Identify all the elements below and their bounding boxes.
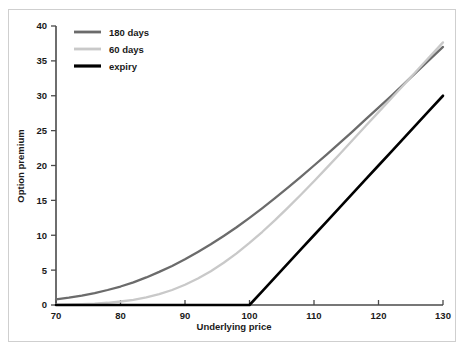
y-tick-label: 40 [36, 20, 47, 31]
y-tick-label: 30 [36, 90, 47, 101]
chart-legend: 180 days60 daysexpiry [74, 27, 149, 72]
y-tick-label: 5 [42, 265, 48, 276]
legend-label: 180 days [109, 27, 149, 38]
legend-label: expiry [109, 61, 138, 72]
y-tick-label: 15 [36, 195, 47, 206]
plot-container: 0510152025303540 708090100110120130 180 … [0, 0, 468, 357]
series-line-expiry [56, 96, 443, 305]
chart-figure: 0510152025303540 708090100110120130 180 … [0, 0, 468, 357]
x-tick-label: 120 [371, 310, 387, 321]
line-chart: 0510152025303540 708090100110120130 180 … [0, 0, 468, 357]
x-tick-label: 80 [115, 310, 126, 321]
x-tick-label: 130 [435, 310, 451, 321]
x-tick-label: 110 [306, 310, 321, 321]
y-tick-label: 10 [36, 230, 47, 241]
series-line-180-days [56, 47, 443, 299]
series-line-60-days [56, 42, 443, 304]
x-tick-label: 100 [242, 310, 258, 321]
y-tick-label: 0 [42, 299, 47, 310]
x-tick-label: 90 [180, 310, 191, 321]
y-tick-label: 25 [36, 125, 47, 136]
y-axis-title: Option premium [15, 129, 26, 202]
x-axis-title: Underlying price [197, 321, 272, 332]
series-layer [56, 42, 443, 305]
y-tick-label: 35 [36, 55, 47, 66]
y-axis: 0510152025303540 [36, 20, 56, 310]
x-tick-label: 70 [51, 310, 62, 321]
legend-label: 60 days [109, 44, 144, 55]
y-tick-label: 20 [36, 160, 47, 171]
